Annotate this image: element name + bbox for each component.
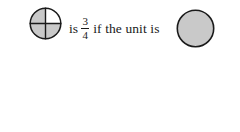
row-1-tail-text: if the unit is xyxy=(93,22,159,36)
row-1-part-circle-svg xyxy=(29,7,62,40)
fraction-row-1: is 3 4 if the unit is xyxy=(0,0,240,62)
illustration-canvas: is 3 4 if the unit is xyxy=(0,0,240,132)
row-1-sentence: is 3 4 if the unit is xyxy=(69,16,160,42)
row-1-part-circle-three-quarters-shaded xyxy=(29,7,62,40)
row-1-lead-word: is xyxy=(69,22,78,36)
fraction-row-2: is 3 8 if the unit is xyxy=(0,66,240,132)
row-1-fraction-numerator: 3 xyxy=(81,16,89,27)
row-1-unit-circle-shape xyxy=(177,10,213,46)
row-1-fraction-three-fourths: 3 4 xyxy=(81,16,89,40)
row-1-fraction-denominator: 4 xyxy=(81,30,89,41)
row-1-unit-circle-whole-shaded xyxy=(176,9,215,48)
row-1-unit-circle-svg xyxy=(176,9,215,48)
